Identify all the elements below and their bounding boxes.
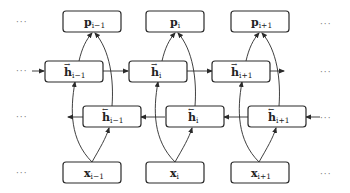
ellipsis-right-output: ··· (320, 19, 332, 29)
forward-hidden-node-2: → hi+1 (212, 60, 270, 82)
edge-x-to-bh-0 (92, 128, 109, 162)
ellipsis-left-backward: ··· (16, 112, 28, 122)
output-node-1: pi (146, 11, 204, 32)
ellipsis-left-output: ··· (16, 17, 28, 27)
edge-fh-to-p-0 (79, 33, 92, 61)
edge-x-to-bh-2 (259, 128, 276, 162)
backward-hidden-node-2: ← hi+1 (248, 105, 306, 127)
input-node-2: xi+1 (231, 162, 289, 183)
birnn-diagram: ··· ··· ··· ··· ··· ··· ··· ··· pi−1 → h… (0, 0, 350, 193)
forward-hidden-node-0: → hi−1 (45, 60, 103, 82)
ellipsis-right-backward: ··· (320, 113, 332, 123)
backward-hidden-node-0: ← hi−1 (83, 105, 141, 127)
edge-x-to-bh-1 (175, 128, 192, 162)
ellipsis-left-forward: ··· (16, 66, 28, 76)
input-node-1: xi (146, 162, 204, 183)
ellipsis-right-input: ··· (320, 169, 332, 179)
output-node-0: pi−1 (63, 11, 121, 32)
ellipsis-right-forward: ··· (320, 67, 332, 77)
edge-fh-to-p-2 (246, 33, 259, 61)
forward-hidden-node-1: → hi (129, 60, 187, 82)
backward-hidden-node-1: ← hi (166, 105, 224, 127)
ellipsis-left-input: ··· (16, 168, 28, 178)
input-node-0: xi−1 (63, 162, 121, 183)
edge-fh-to-p-1 (162, 33, 175, 61)
output-node-2: pi+1 (231, 11, 289, 32)
